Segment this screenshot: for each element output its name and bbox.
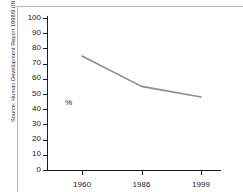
y-tick-label: 10 — [32, 149, 41, 159]
x-tick-mark-1999 — [201, 170, 202, 175]
y-tick-mark — [43, 170, 48, 171]
x-tick-label: 1986 — [133, 180, 151, 189]
y-tick-label: 30 — [32, 119, 41, 129]
x-tick-mark-1986 — [142, 170, 143, 175]
y-tick-label: 80 — [32, 43, 41, 53]
y-tick-label: 70 — [32, 58, 41, 68]
y-tick-label: 90 — [32, 28, 41, 38]
x-tick-label: 1960 — [73, 180, 91, 189]
y-tick-label: 20 — [32, 134, 41, 144]
data-series-line — [47, 18, 221, 170]
x-tick-label: 1999 — [192, 180, 210, 189]
x-tick-mark-1960 — [82, 170, 83, 175]
chart-page: Source: Human Development Report 1998/9 … — [0, 0, 243, 192]
y-tick-label: 50 — [32, 89, 41, 99]
source-credit: Source: Human Development Report 1998/9 … — [10, 0, 16, 122]
y-tick-label: 40 — [32, 104, 41, 114]
y-tick-label: 0 — [37, 165, 41, 175]
y-tick-label: 60 — [32, 73, 41, 83]
x-axis-line — [47, 170, 221, 171]
plot-area: % 0102030405060708090100 196019861999 — [47, 18, 221, 170]
y-tick-label: 100 — [28, 13, 41, 23]
